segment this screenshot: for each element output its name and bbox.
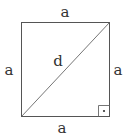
- label-diagonal: d: [53, 52, 63, 70]
- label-bottom-side: a: [58, 119, 67, 137]
- diagonal-line: [22, 23, 110, 117]
- label-right-side: a: [114, 61, 123, 79]
- square-diagonal-diagram: a a a a d: [0, 0, 127, 138]
- label-left-side: a: [5, 61, 14, 79]
- label-top-side: a: [61, 3, 70, 21]
- right-angle-dot-icon: [103, 110, 105, 112]
- right-angle-marker: [99, 106, 110, 117]
